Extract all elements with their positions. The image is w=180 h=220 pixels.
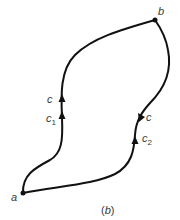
point-b-dot (153, 18, 158, 23)
label-c-right: c (146, 112, 152, 123)
path-c1 (23, 20, 155, 193)
path-c2 (23, 20, 169, 193)
label-point-a: a (11, 192, 17, 203)
diagram-canvas (0, 0, 180, 220)
label-c2-sub: 2 (148, 138, 152, 147)
arrow-up-icon (59, 111, 66, 119)
figure-caption: (b) (101, 205, 114, 216)
arrow-up-icon (59, 94, 66, 102)
label-c-left: c (47, 94, 53, 105)
label-point-b: b (158, 6, 164, 17)
point-a-dot (21, 191, 26, 196)
caption-close-paren: ) (111, 204, 115, 216)
arrow-up-icon (132, 136, 139, 144)
label-c2: c2 (142, 133, 152, 147)
label-c1: c1 (46, 113, 56, 127)
label-c1-sub: 1 (52, 118, 56, 127)
